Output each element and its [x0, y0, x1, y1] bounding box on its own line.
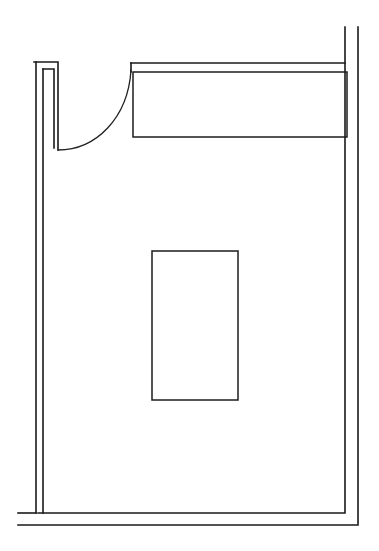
floor-plan-canvas: Floor Plan	[0, 0, 379, 551]
floor-plan-drawing	[0, 0, 379, 551]
